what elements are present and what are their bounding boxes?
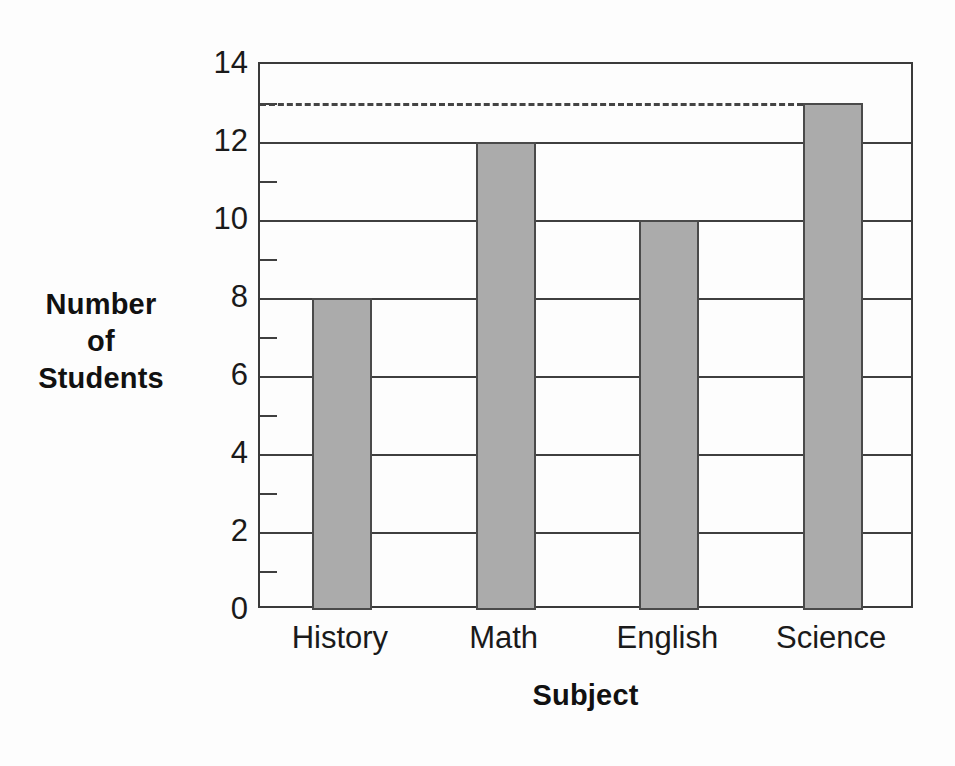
bar-history[interactable] bbox=[312, 298, 372, 610]
minor-tick-y-9 bbox=[260, 259, 277, 261]
y-tick-label-10: 10 bbox=[186, 203, 248, 234]
y-tick-label-2: 2 bbox=[186, 515, 248, 546]
y-axis-title: Number of Students bbox=[8, 286, 194, 397]
y-tick-label-4: 4 bbox=[186, 437, 248, 468]
y-axis-title-line-3: Students bbox=[8, 360, 194, 397]
y-axis-tick-labels: 02468101214 bbox=[186, 0, 248, 766]
plot-area bbox=[258, 62, 913, 608]
bar-english[interactable] bbox=[639, 220, 699, 610]
y-tick-label-14: 14 bbox=[186, 47, 248, 78]
reference-line-13 bbox=[260, 103, 803, 106]
bar-chart-figure: Number of Students 02468101214 HistoryMa… bbox=[0, 0, 955, 766]
x-axis-title: Subject bbox=[258, 678, 913, 712]
bar-math[interactable] bbox=[476, 142, 536, 610]
minor-tick-y-5 bbox=[260, 415, 277, 417]
y-tick-label-12: 12 bbox=[186, 125, 248, 156]
plot-inner bbox=[260, 64, 911, 606]
minor-tick-y-1 bbox=[260, 571, 277, 573]
y-tick-label-0: 0 bbox=[186, 593, 248, 624]
x-tick-label-history: History bbox=[292, 617, 388, 659]
x-tick-label-math: Math bbox=[469, 617, 538, 659]
y-tick-label-6: 6 bbox=[186, 359, 248, 390]
bar-science[interactable] bbox=[803, 103, 863, 610]
x-axis-tick-labels: HistoryMathEnglishScience bbox=[258, 617, 913, 665]
y-axis-title-line-2: of bbox=[8, 323, 194, 360]
x-tick-label-english: English bbox=[617, 617, 719, 659]
x-tick-label-science: Science bbox=[776, 617, 886, 659]
minor-tick-y-3 bbox=[260, 493, 277, 495]
minor-tick-y-11 bbox=[260, 181, 277, 183]
minor-tick-y-7 bbox=[260, 337, 277, 339]
y-axis-title-line-1: Number bbox=[8, 286, 194, 323]
y-tick-label-8: 8 bbox=[186, 281, 248, 312]
